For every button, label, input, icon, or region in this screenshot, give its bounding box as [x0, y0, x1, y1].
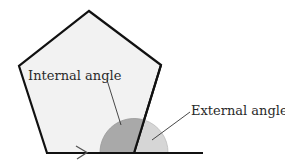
external-leader-line: [152, 112, 190, 140]
pentagon-diagram: Internal angle External angle: [0, 0, 285, 168]
internal-angle-label: Internal angle: [28, 68, 122, 83]
external-angle-label: External angle: [191, 103, 285, 118]
